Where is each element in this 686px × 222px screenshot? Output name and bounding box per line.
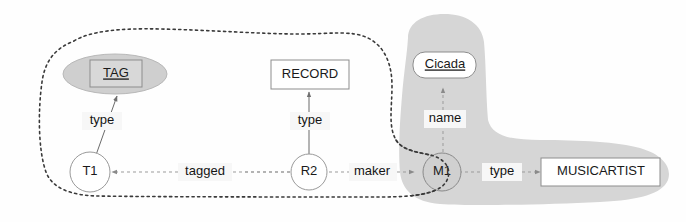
node-cicada[interactable]: Cicada	[413, 52, 476, 78]
node-label-r2: R2	[301, 163, 318, 178]
edge-label-maker: maker	[354, 163, 391, 178]
edge-tagged: tagged	[112, 163, 296, 181]
edge-type-tag: type	[82, 96, 122, 155]
node-tag[interactable]: TAG	[63, 54, 167, 94]
node-record[interactable]: RECORD	[271, 60, 349, 89]
node-label-tag: TAG	[103, 65, 129, 80]
edge-label-type-record: type	[298, 112, 323, 127]
edge-label-type-musicartist: type	[490, 163, 515, 178]
edge-label-tagged: tagged	[185, 163, 225, 178]
node-m1[interactable]: M1	[423, 153, 461, 191]
node-label-record: RECORD	[282, 66, 338, 81]
node-label-t1: T1	[82, 163, 97, 178]
node-label-cicada: Cicada	[425, 56, 466, 71]
diagram-svg: T1 (dotted horizontal, arrowhead at T1) …	[0, 0, 686, 222]
node-r2[interactable]: R2	[291, 154, 327, 190]
node-label-musicartist: MUSICARTIST	[557, 163, 645, 178]
diagram-canvas: T1 (dotted horizontal, arrowhead at T1) …	[0, 0, 686, 222]
edge-type-record: type	[290, 92, 330, 155]
edge-label-name: name	[429, 110, 462, 125]
edge-label-type-tag: type	[90, 112, 115, 127]
node-t1[interactable]: T1	[70, 152, 110, 192]
node-musicartist[interactable]: MUSICARTIST	[541, 158, 660, 186]
